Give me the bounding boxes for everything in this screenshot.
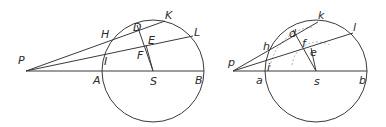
point-label-l: l [353,21,356,34]
point-label-I: I [104,55,107,68]
point-label-b: b [359,74,366,87]
right-figure: phdklfeiasb [227,9,367,122]
point-label-p: p [227,56,235,69]
point-label-K: K [165,9,173,22]
point-label-A: A [92,74,101,87]
point-label-i: i [267,61,270,74]
point-label-h: h [263,40,270,53]
point-label-F: F [137,49,144,62]
point-label-d: d [289,27,297,40]
point-label-S: S [150,75,157,88]
point-label-L: L [194,26,200,39]
point-label-e: e [310,46,317,59]
point-label-k: k [318,9,325,22]
point-label-H: H [101,28,109,41]
geometry-diagram: PHDKLEFIASB phdklfeiasb [0,0,386,127]
point-label-s: s [314,75,320,88]
point-label-P: P [18,54,25,67]
left-figure: PHDKLEFIASB [18,9,204,122]
point-label-a: a [256,74,263,87]
point-label-E: E [148,34,155,47]
point-label-B: B [195,74,203,87]
point-label-D: D [133,21,141,34]
line-ES [146,45,153,71]
